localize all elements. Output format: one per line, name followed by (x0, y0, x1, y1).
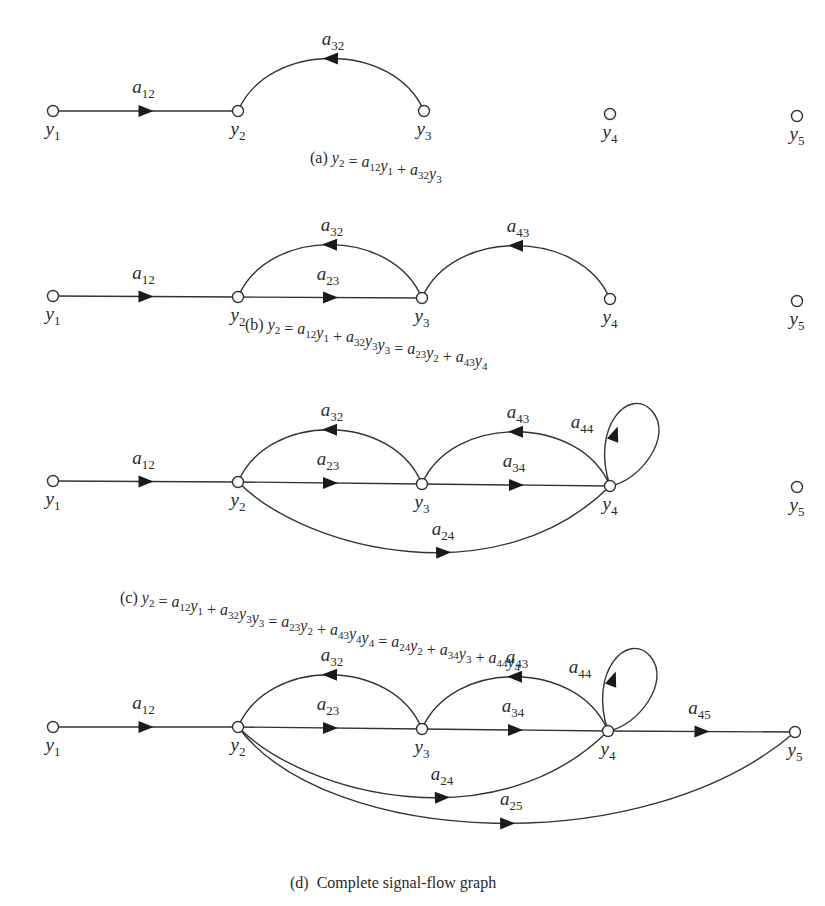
node-label-y3: y3 (413, 736, 430, 761)
arrow-head (436, 546, 451, 558)
edge-a12: a12 (53, 76, 238, 117)
gain-label-a43: a43 (507, 215, 530, 240)
arrow-head (322, 239, 337, 251)
node-y4: y4 (601, 109, 618, 147)
gain-label-a45: a45 (688, 697, 711, 722)
arrow-head (694, 725, 709, 737)
gain-label-a32: a32 (321, 399, 344, 424)
node-circle (792, 111, 803, 122)
node-label-y1: y1 (44, 303, 61, 328)
node-label-y5: y5 (788, 308, 805, 333)
node-label-y1: y1 (44, 118, 61, 143)
arrow-head (508, 240, 523, 252)
gain-label-a23: a23 (317, 693, 340, 718)
node-label-y1: y1 (44, 488, 61, 513)
arrow-head (500, 817, 515, 829)
arrow-head (323, 722, 338, 734)
edge-a23: a23 (238, 693, 422, 734)
panel-b: a12a32a23a43y1y2y3y4y5(b) y2 = a12y1 + a… (44, 214, 805, 372)
gain-label-a34: a34 (502, 695, 525, 720)
node-circle (48, 476, 59, 487)
edge-a12: a12 (53, 262, 238, 303)
edge-a43: a43 (422, 215, 610, 299)
node-y5: y5 (788, 111, 805, 149)
arrow-head (323, 291, 338, 303)
node-circle (790, 727, 801, 738)
gain-label-a32: a32 (321, 214, 344, 239)
node-circle (419, 106, 430, 117)
edge-a34: a34 (422, 450, 610, 491)
node-y4: y4 (601, 294, 618, 332)
caption-b: (b) y2 = a12y1 + a32y3y3 = a23y2 + a43y4 (245, 316, 488, 372)
node-circle (792, 482, 803, 493)
gain-label-a12: a12 (132, 692, 155, 717)
gain-label-a43: a43 (507, 401, 530, 426)
edge-a44: a44 (569, 648, 657, 731)
node-y1: y1 (44, 476, 61, 514)
panel-d: a12a32a23a43a34a44a24a45a25y1y2y3y4y5(d)… (44, 644, 803, 892)
node-circle (603, 726, 614, 737)
gain-label-a32: a32 (321, 644, 344, 669)
node-label-y5: y5 (788, 494, 805, 519)
edges: a12a32a23a43a34a44a24a45a25 (53, 644, 795, 830)
node-y1: y1 (44, 722, 61, 760)
node-circle (48, 106, 59, 117)
node-circle (48, 722, 59, 733)
arrow-head (508, 724, 523, 736)
edge-path (238, 727, 608, 798)
node-label-y5: y5 (786, 739, 803, 764)
node-y5: y5 (788, 296, 805, 334)
node-circle (605, 481, 616, 492)
panel-c: a12a32a23a43a34a44a24y1y2y3y4y5(c) y2 = … (44, 399, 805, 673)
node-label-y2: y2 (229, 304, 246, 329)
edge-a23: a23 (238, 263, 422, 304)
arrow-head (139, 721, 154, 733)
node-label-y4: y4 (601, 493, 618, 518)
node-circle (605, 109, 616, 120)
node-label-y5: y5 (788, 123, 805, 148)
node-circle (605, 294, 616, 305)
gain-label-a23: a23 (317, 448, 340, 473)
node-circle (417, 293, 428, 304)
gain-label-a24: a24 (431, 763, 454, 788)
gain-label-a12: a12 (132, 76, 155, 101)
node-y3: y3 (415, 106, 432, 144)
edge-path (605, 403, 659, 486)
node-circle (48, 291, 59, 302)
edge-path (238, 430, 422, 484)
node-label-y4: y4 (601, 121, 618, 146)
gain-label-a34: a34 (503, 450, 526, 475)
arrow-head (508, 426, 523, 438)
gain-label-a12: a12 (132, 262, 155, 287)
edge-a44: a44 (571, 403, 659, 486)
arrow-head (323, 477, 338, 489)
node-y1: y1 (44, 291, 61, 329)
arrow-head (509, 479, 524, 491)
arrow-head (138, 290, 153, 302)
gain-label-a44: a44 (569, 656, 592, 681)
edge-path (238, 482, 610, 553)
node-label-y2: y2 (229, 489, 246, 514)
node-y5: y5 (788, 482, 805, 520)
edges: a12a32 (53, 28, 424, 118)
edge-path (238, 245, 422, 298)
edge-a32: a32 (238, 28, 424, 112)
node-circle (792, 296, 803, 307)
gain-label-a25: a25 (500, 788, 522, 813)
arrow-head (139, 105, 154, 117)
node-circle (233, 722, 244, 733)
gain-label-a23: a23 (317, 263, 340, 288)
edge-a34: a34 (422, 695, 608, 736)
edge-path (603, 648, 657, 731)
edge-a12: a12 (53, 692, 238, 733)
node-label-y3: y3 (413, 305, 430, 330)
edge-path (422, 432, 610, 486)
nodes: y1y2y3y4y5 (44, 722, 803, 765)
node-y1: y1 (44, 106, 61, 144)
node-label-y4: y4 (599, 738, 616, 763)
panel-a: a12a32y1y2y3y4y5(a) y2 = a12y1 + a32y3 (44, 28, 805, 186)
arrow-head (322, 669, 337, 681)
edges: a12a32a23a43a34a44a24 (53, 399, 659, 559)
edges: a12a32a23a43 (53, 214, 610, 304)
caption-d: (d) Complete signal-flow graph (290, 874, 496, 892)
